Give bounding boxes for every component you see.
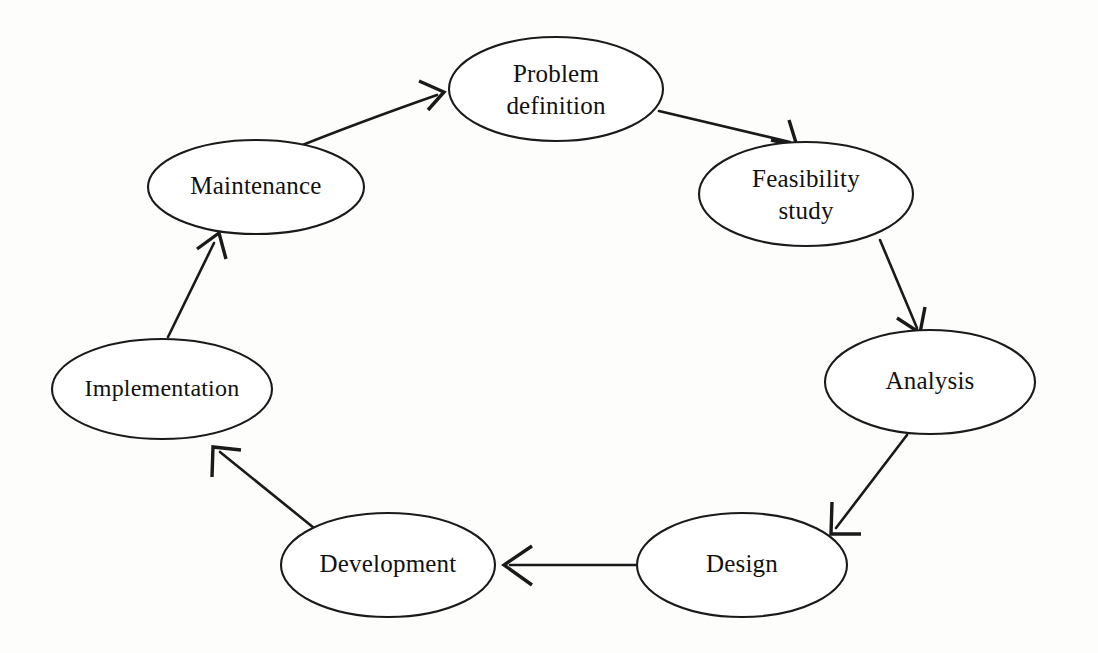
node-development[interactable]: Development (281, 513, 495, 617)
node-implementation[interactable]: Implementation (52, 339, 272, 439)
node-label-feasibility-study-line2: study (778, 197, 833, 224)
edge-line (300, 95, 437, 146)
node-maintenance[interactable]: Maintenance (148, 140, 364, 234)
edge-line (659, 111, 790, 142)
edge-analysis-to-design (831, 435, 907, 534)
edge-line (168, 243, 214, 337)
node-label-implementation: Implementation (85, 375, 240, 401)
node-label-maintenance: Maintenance (190, 172, 321, 199)
arrowhead-icon (212, 447, 241, 477)
node-label-development: Development (320, 550, 457, 577)
edge-development-to-implementation (212, 447, 314, 528)
node-label-problem-definition-line2: definition (506, 92, 606, 119)
node-shape-ellipse (699, 142, 913, 246)
edge-design-to-development (504, 546, 636, 585)
node-analysis[interactable]: Analysis (825, 330, 1035, 434)
edge-implementation-to-maintenance (168, 233, 226, 337)
edge-maintenance-to-problem-definition (300, 81, 444, 146)
cycle-diagram: Problem definition Feasibility study Ana… (0, 0, 1098, 653)
diagram-canvas: Problem definition Feasibility study Ana… (0, 0, 1098, 653)
node-label-design: Design (706, 550, 778, 577)
node-label-analysis: Analysis (885, 367, 974, 394)
node-problem-definition[interactable]: Problem definition (449, 37, 663, 141)
edge-line (880, 240, 917, 328)
node-label-feasibility-study-line1: Feasibility (752, 165, 860, 192)
node-feasibility-study[interactable]: Feasibility study (699, 142, 913, 246)
arrowhead-icon (419, 81, 444, 110)
edge-line (220, 452, 314, 528)
node-shape-ellipse (449, 37, 663, 141)
edge-line (836, 435, 907, 528)
edge-feasibility-study-to-analysis (880, 240, 925, 333)
node-design[interactable]: Design (637, 513, 847, 617)
edge-problem-definition-to-feasibility-study (659, 111, 797, 146)
node-label-problem-definition-line1: Problem (513, 60, 599, 87)
